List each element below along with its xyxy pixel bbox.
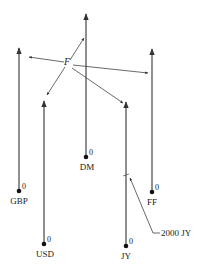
arrow-f-to-gbp [29,57,64,62]
origin-gbp [17,189,22,194]
ff-zero: 0 [155,184,159,192]
gbp-zero: 0 [22,183,26,191]
usd-label: USD [36,250,54,259]
origin-usd [42,242,47,247]
arrow-f-to-dm [70,38,84,60]
arrow-f-to-jy [72,68,123,103]
arrow-f-to-ff [73,65,148,73]
usd-zero: 0 [47,236,51,244]
currency-diagram: F 0 GBP 0 USD 0 DM 0 JY 0 FF 2000 JY [0,0,200,271]
origin-dm [84,155,89,160]
gbp-label: GBP [10,197,28,206]
origin-jy [124,244,129,249]
arrow-f-to-usd [47,67,65,95]
jy-label: JY [121,252,131,261]
ff-label: FF [147,198,157,207]
origin-ff [150,190,155,195]
dm-zero: 0 [89,149,93,157]
dm-label: DM [80,163,95,172]
origin-f-label: F [64,57,70,67]
jy-zero: 0 [129,238,133,246]
annotation-2000-jy: 2000 JY [161,229,191,238]
